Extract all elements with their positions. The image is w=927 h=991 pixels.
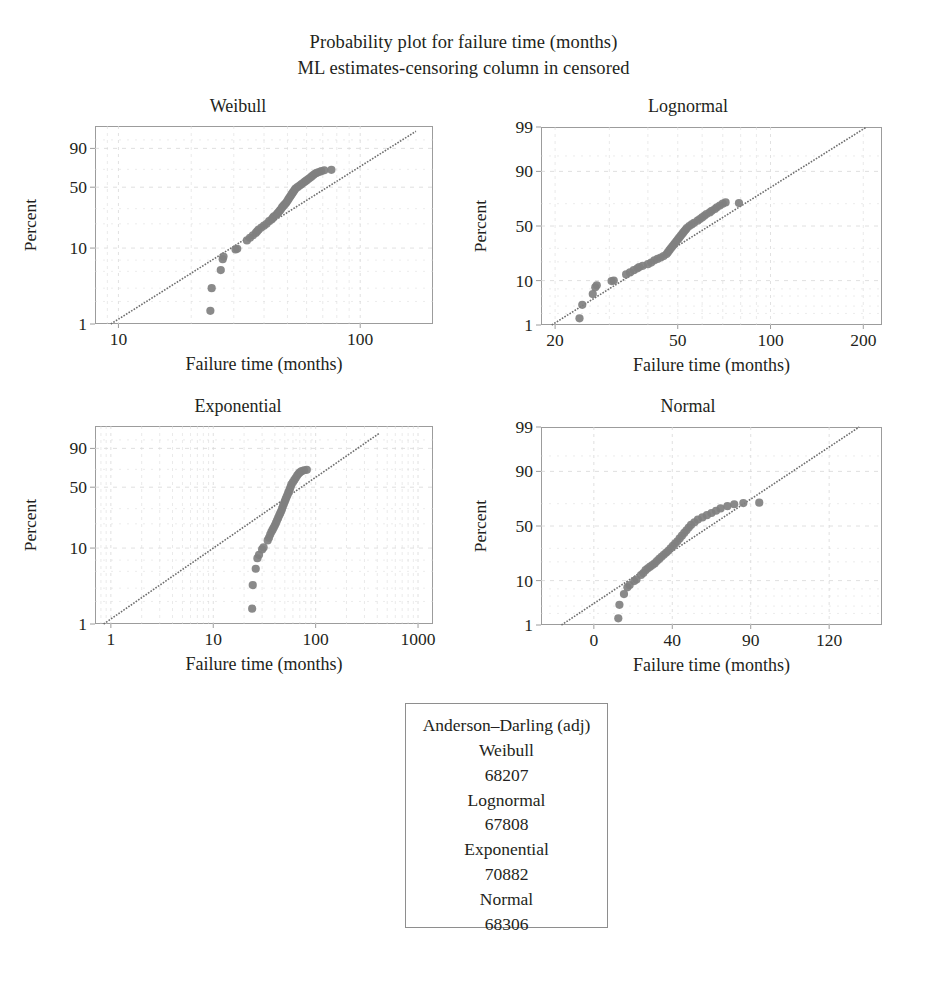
data-point: [208, 284, 216, 292]
y-tick-label: 10: [487, 270, 533, 291]
panel-title-exponential: Exponential: [18, 396, 458, 417]
plot-canvas: [541, 427, 882, 625]
y-tick-label: 90: [487, 161, 533, 182]
x-axis-label: Failure time (months): [541, 655, 882, 676]
plot-area-lognormal: 1105090992050100200PercentFailure time (…: [541, 127, 882, 325]
data-point: [259, 543, 267, 551]
legend-value: 68306: [406, 912, 607, 937]
x-tick-label: 20: [546, 330, 564, 351]
legend-value: 70882: [406, 862, 607, 887]
y-tick-label: 90: [41, 138, 87, 159]
x-tick-label: 200: [850, 330, 876, 351]
data-point: [578, 301, 586, 309]
y-tick-label: 1: [487, 315, 533, 336]
y-tick-label: 10: [487, 570, 533, 591]
legend-rows: Weibull68207Lognormal67808Exponential708…: [406, 738, 607, 937]
panel-normal: Normal 11050909904090120PercentFailure t…: [468, 396, 908, 666]
data-point: [735, 199, 743, 207]
x-tick-label: 100: [757, 330, 783, 351]
x-tick-label: 40: [664, 630, 682, 651]
data-point: [739, 499, 747, 507]
y-axis-label: Percent: [20, 199, 41, 251]
panel-exponential: Exponential 11050901101001000PercentFail…: [18, 396, 458, 666]
data-point: [249, 581, 257, 589]
x-tick-label: 100: [303, 629, 329, 650]
data-point: [206, 307, 214, 315]
data-point: [219, 252, 227, 260]
x-tick-label: 0: [589, 630, 598, 651]
y-axis-label: Percent: [20, 499, 41, 551]
probability-plot-figure: Probability plot for failure time (month…: [0, 0, 927, 991]
y-tick-label: 90: [487, 461, 533, 482]
anderson-darling-legend: Anderson–Darling (adj) Weibull68207Logno…: [405, 703, 608, 928]
x-axis-label: Failure time (months): [95, 654, 433, 675]
y-tick-label: 1: [41, 314, 87, 335]
legend-label: Lognormal: [406, 788, 607, 813]
data-point: [755, 499, 763, 507]
data-point: [327, 166, 335, 174]
legend-value: 68207: [406, 763, 607, 788]
plot-canvas: [95, 426, 433, 624]
data-point: [320, 166, 328, 174]
data-point: [593, 281, 601, 289]
data-point: [252, 565, 260, 573]
data-point: [615, 601, 623, 609]
data-point: [730, 500, 738, 508]
x-tick-label: 10: [205, 629, 223, 650]
y-tick-label: 1: [487, 615, 533, 636]
legend-label: Exponential: [406, 837, 607, 862]
y-tick-label: 1: [41, 614, 87, 635]
legend-heading: Anderson–Darling (adj): [406, 713, 607, 738]
legend-label: Weibull: [406, 738, 607, 763]
plot-area-weibull: 110509010100PercentFailure time (months): [95, 126, 433, 324]
figure-title: Probability plot for failure time (month…: [0, 30, 927, 81]
plot-area-exponential: 11050901101001000PercentFailure time (mo…: [95, 426, 433, 624]
x-tick-label: 50: [669, 330, 687, 351]
data-point: [217, 266, 225, 274]
data-point: [722, 198, 730, 206]
y-tick-label: 50: [41, 177, 87, 198]
data-point: [248, 605, 256, 613]
x-tick-label: 90: [742, 630, 760, 651]
y-tick-label: 99: [487, 117, 533, 138]
panel-title-normal: Normal: [468, 396, 908, 417]
x-axis-label: Failure time (months): [95, 354, 433, 375]
x-tick-label: 1000: [401, 629, 436, 650]
figure-title-line-1: Probability plot for failure time (month…: [0, 30, 927, 56]
y-tick-label: 50: [487, 216, 533, 237]
x-tick-label: 100: [347, 329, 373, 350]
plot-area-normal: 11050909904090120PercentFailure time (mo…: [541, 427, 882, 625]
x-tick-label: 120: [816, 630, 842, 651]
data-point: [233, 245, 241, 253]
y-tick-label: 99: [487, 417, 533, 438]
x-axis-label: Failure time (months): [541, 355, 882, 376]
figure-title-line-2: ML estimates-censoring column in censore…: [0, 56, 927, 82]
x-tick-label: 1: [106, 629, 115, 650]
ml-fit-line: [104, 433, 380, 624]
panel-title-lognormal: Lognormal: [468, 96, 908, 117]
panel-title-weibull: Weibull: [18, 96, 458, 117]
data-point: [614, 614, 622, 622]
y-tick-label: 50: [41, 477, 87, 498]
legend-value: 67808: [406, 812, 607, 837]
data-point: [575, 314, 583, 322]
y-tick-label: 50: [487, 516, 533, 537]
data-point: [610, 276, 618, 284]
y-tick-label: 10: [41, 238, 87, 259]
y-tick-label: 90: [41, 438, 87, 459]
data-point: [303, 466, 311, 474]
panel-lognormal: Lognormal 1105090992050100200PercentFail…: [468, 96, 908, 366]
y-axis-label: Percent: [470, 200, 491, 252]
x-tick-label: 10: [110, 329, 128, 350]
y-axis-label: Percent: [470, 500, 491, 552]
plot-canvas: [95, 126, 433, 324]
y-tick-label: 10: [41, 538, 87, 559]
legend-label: Normal: [406, 887, 607, 912]
plot-canvas: [541, 127, 882, 325]
panel-weibull: Weibull 110509010100PercentFailure time …: [18, 96, 458, 366]
